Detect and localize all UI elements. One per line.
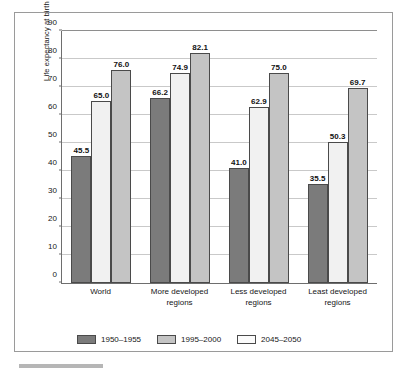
legend-label: 1995–2000 — [181, 335, 221, 344]
y-axis-tick-label: 90 — [48, 18, 62, 27]
bar-value-label: 75.0 — [271, 63, 287, 72]
bar[interactable]: 62.9 — [249, 107, 269, 283]
x-axis-category-label: World — [61, 287, 140, 308]
y-axis-tick-label: 30 — [48, 186, 62, 195]
bar-group: 66.274.982.1 — [141, 31, 220, 283]
bar-group: 41.062.975.0 — [220, 31, 299, 283]
y-axis-tick-label: 80 — [48, 46, 62, 55]
y-axis-tick-label: 50 — [48, 130, 62, 139]
bar-value-label: 69.7 — [350, 78, 366, 87]
x-axis-category-line: World — [61, 287, 140, 298]
x-axis-category-line: More developed — [140, 287, 219, 298]
bar[interactable]: 66.2 — [150, 98, 170, 283]
figure-frame: Life expectancy at birth (years) 9080706… — [14, 12, 393, 352]
plot-area: 9080706050403020100 45.565.076.066.274.9… — [61, 31, 377, 284]
bar-value-label: 45.5 — [74, 146, 90, 155]
y-axis-tick-label: 10 — [48, 242, 62, 251]
legend-item[interactable]: 1950–1955 — [77, 335, 141, 344]
bar[interactable]: 41.0 — [229, 168, 249, 283]
x-axis-category-line: Least developed — [298, 287, 377, 298]
bottom-rule — [19, 364, 103, 368]
legend-swatch — [237, 335, 256, 344]
y-axis-tick-label: 60 — [48, 102, 62, 111]
x-axis-category-labels: WorldMore developedregionsLess developed… — [61, 287, 377, 308]
bar[interactable]: 35.5 — [308, 184, 328, 283]
bar-value-label: 41.0 — [231, 158, 247, 167]
bar[interactable]: 75.0 — [269, 73, 289, 283]
bar[interactable]: 74.9 — [170, 73, 190, 283]
bar-value-label: 74.9 — [172, 63, 188, 72]
y-axis-tick-label: 40 — [48, 158, 62, 167]
bar-value-label: 76.0 — [114, 60, 130, 69]
x-axis-category-line: regions — [219, 298, 298, 309]
bar-groups: 45.565.076.066.274.982.141.062.975.035.5… — [62, 31, 377, 283]
legend-swatch — [77, 335, 96, 344]
y-axis-tick-label: 0 — [53, 270, 62, 279]
bar-group: 45.565.076.0 — [62, 31, 141, 283]
y-axis-tick-label: 20 — [48, 214, 62, 223]
legend-item[interactable]: 2045–2050 — [237, 335, 301, 344]
bar[interactable]: 76.0 — [111, 70, 131, 283]
bar-value-label: 35.5 — [310, 174, 326, 183]
x-axis-category-label: More developedregions — [140, 287, 219, 308]
bar-value-label: 66.2 — [152, 88, 168, 97]
x-axis-category-line: regions — [298, 298, 377, 309]
x-axis-category-line: Less developed — [219, 287, 298, 298]
bar[interactable]: 82.1 — [190, 53, 210, 283]
x-axis-category-label: Less developedregions — [219, 287, 298, 308]
bar-value-label: 82.1 — [192, 43, 208, 52]
legend-label: 1950–1955 — [101, 335, 141, 344]
bar-value-label: 50.3 — [330, 132, 346, 141]
bar[interactable]: 65.0 — [91, 101, 111, 283]
x-axis-category-line: regions — [140, 298, 219, 309]
x-axis-category-label: Least developedregions — [298, 287, 377, 308]
bar[interactable]: 69.7 — [348, 88, 368, 283]
legend-label: 2045–2050 — [261, 335, 301, 344]
bar-value-label: 62.9 — [251, 97, 267, 106]
y-axis-tick-label: 70 — [48, 74, 62, 83]
bar-value-label: 65.0 — [94, 91, 110, 100]
bar[interactable]: 50.3 — [328, 142, 348, 283]
bar[interactable]: 45.5 — [71, 156, 91, 283]
legend-swatch — [157, 335, 176, 344]
legend-item[interactable]: 1995–2000 — [157, 335, 221, 344]
chart-legend: 1950–19551995–20002045–2050 — [61, 335, 377, 344]
bar-group: 35.550.369.7 — [298, 31, 377, 283]
